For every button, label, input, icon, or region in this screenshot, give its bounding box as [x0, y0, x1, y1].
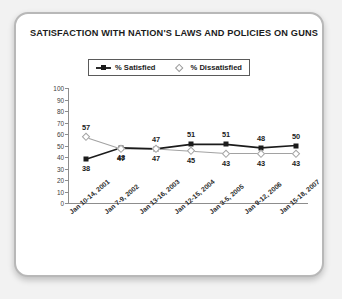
data-point-label: 47 [152, 135, 160, 144]
data-point-label: 43 [222, 159, 230, 168]
y-axis-tick-label: 30 [57, 165, 64, 172]
y-axis-tick-label: 100 [53, 85, 64, 92]
data-point-label: 38 [82, 164, 90, 173]
legend-label-satisfied: % Satisfied [115, 63, 156, 72]
data-point-label: 51 [187, 130, 195, 139]
plot-area: 0102030405060708090100 38484751514850574… [68, 88, 308, 214]
y-axis-tick-label: 20 [57, 177, 64, 184]
data-point-marker[interactable] [84, 157, 89, 162]
open-diamond-marker-icon [172, 63, 187, 72]
data-point-marker[interactable] [224, 142, 229, 147]
y-axis-tick-label: 80 [57, 108, 64, 115]
y-axis-tick-label: 0 [60, 200, 64, 207]
legend-label-dissatisfied: % Dissatisfied [191, 63, 243, 72]
chart-card: SATISFACTION WITH NATION'S LAWS AND POLI… [14, 12, 324, 277]
data-point-label: 50 [292, 132, 300, 141]
filled-square-line-marker-icon [96, 63, 111, 72]
page-title: SATISFACTION WITH NATION'S LAWS AND POLI… [30, 28, 315, 38]
y-axis-tick-label: 70 [57, 119, 64, 126]
y-axis-tick-label: 10 [57, 188, 64, 195]
data-point-label: 57 [82, 123, 90, 132]
chart-legend: % Satisfied % Dissatisfied [88, 59, 250, 76]
data-point-label: 43 [292, 159, 300, 168]
data-point-label: 51 [222, 130, 230, 139]
data-point-label: 43 [257, 159, 265, 168]
legend-item-satisfied[interactable]: % Satisfied [96, 63, 156, 72]
data-point-label: 48 [257, 134, 265, 143]
y-axis-tick-label: 40 [57, 154, 64, 161]
y-axis-tick-label: 50 [57, 142, 64, 149]
legend-item-dissatisfied[interactable]: % Dissatisfied [172, 63, 243, 72]
y-axis-tick-label: 60 [57, 131, 64, 138]
data-point-label: 47 [152, 154, 160, 163]
data-point-label: 45 [187, 156, 195, 165]
data-point-label: 47 [117, 154, 125, 163]
y-axis-tick-label: 90 [57, 96, 64, 103]
data-point-marker[interactable] [294, 143, 299, 148]
